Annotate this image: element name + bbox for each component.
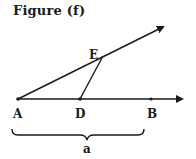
point-b	[149, 97, 152, 100]
point-a	[16, 97, 20, 101]
point-d	[78, 97, 82, 101]
label-e: E	[89, 48, 98, 62]
ray-ae	[18, 27, 163, 99]
label-b: B	[147, 107, 157, 121]
label-d: D	[75, 107, 85, 121]
label-a: A	[12, 107, 23, 121]
label-brace-a: a	[83, 142, 91, 156]
brace	[12, 129, 144, 140]
geometry-diagram: A D B E a	[0, 0, 196, 159]
